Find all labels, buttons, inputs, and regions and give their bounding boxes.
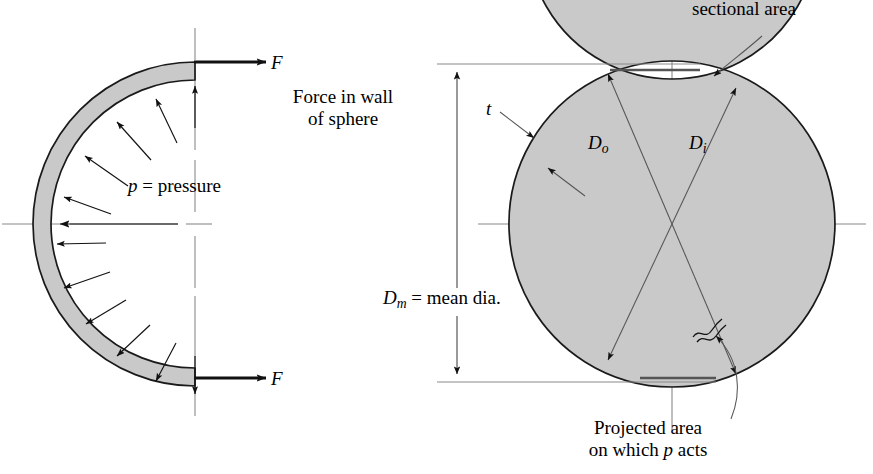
- force-label-bottom: F: [271, 368, 283, 390]
- force-caption: Force in wall of sphere: [267, 86, 419, 131]
- outer-diameter-subscript: o: [602, 141, 609, 156]
- inner-diameter-variable: D: [689, 132, 703, 153]
- inner-diameter-label: Di: [689, 132, 707, 157]
- mean-diameter-text: = mean dia.: [407, 287, 501, 308]
- projected-area-line-2-prefix: on which: [589, 439, 664, 460]
- diagram-svg: [0, 0, 873, 474]
- thickness-leader-upper: [500, 112, 534, 138]
- right-diagram-group: [437, 0, 866, 430]
- outer-diameter-variable: D: [588, 132, 602, 153]
- force-caption-line-1: Force in wall: [267, 86, 419, 108]
- projected-area-line-2: on which p acts: [558, 439, 738, 461]
- inner-diameter-subscript: i: [703, 141, 707, 156]
- outer-diameter-label: Do: [588, 132, 609, 157]
- projected-area-label: Projected area on which p acts: [558, 417, 738, 462]
- figure-canvas: F F Force in wall of sphere p = pressure…: [0, 0, 873, 474]
- left-diagram-group: [2, 28, 266, 416]
- force-caption-line-2: of sphere: [267, 108, 419, 130]
- pressure-label-text: = pressure: [138, 175, 222, 196]
- mean-diameter-label: Dm = mean dia.: [383, 287, 501, 312]
- sectional-area-label: sectional area: [692, 0, 796, 20]
- mean-diameter-variable: D: [383, 287, 397, 308]
- thickness-label: t: [486, 98, 491, 120]
- pressure-label-variable: p: [128, 175, 138, 196]
- pressure-label: p = pressure: [128, 175, 221, 197]
- force-label-top: F: [271, 52, 283, 74]
- projected-area-pressure-variable: p: [664, 439, 674, 460]
- mean-diameter-subscript: m: [397, 296, 407, 311]
- projected-area-line-2-suffix: acts: [673, 439, 707, 460]
- sphere-wall-ring: [509, 0, 835, 387]
- projected-area-line-1: Projected area: [558, 417, 738, 439]
